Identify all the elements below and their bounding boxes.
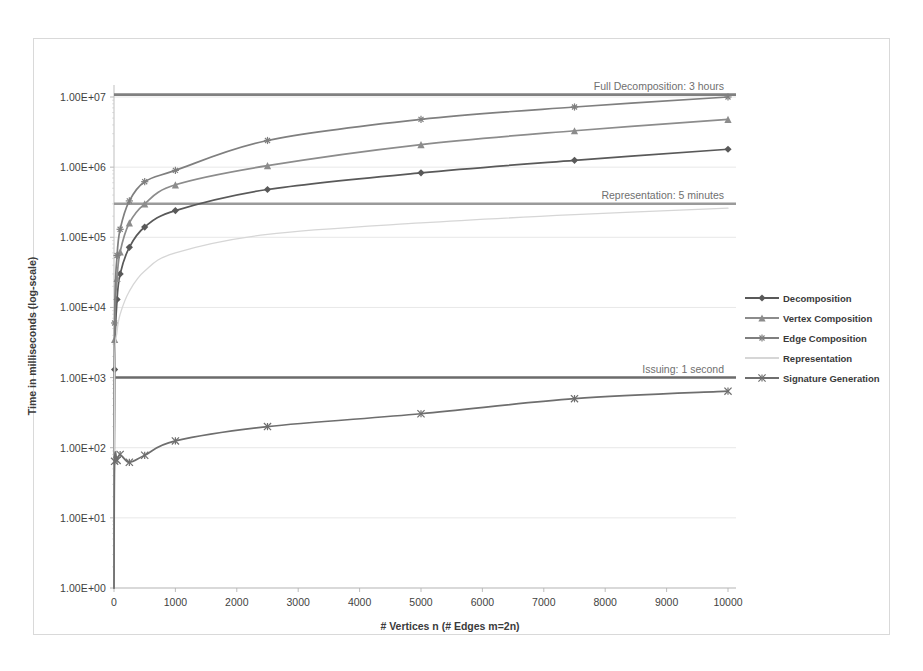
- data-point-marker: [264, 137, 271, 144]
- annotation-label-2: Issuing: 1 second: [642, 363, 724, 375]
- x-tick-label: 5000: [391, 596, 451, 608]
- legend-label: Edge Composition: [783, 333, 867, 344]
- annotation-label-1: Representation: 5 minutes: [601, 189, 724, 201]
- x-tick-label: 8000: [575, 596, 635, 608]
- legend-key-icon: [745, 332, 779, 344]
- legend-key-icon: [745, 312, 779, 324]
- legend-key-icon: [745, 372, 779, 384]
- data-point-marker: [111, 319, 118, 326]
- x-tick-label: 3000: [268, 596, 328, 608]
- data-point-marker: [117, 226, 124, 233]
- data-point-marker: [571, 103, 578, 110]
- legend-marker-icon: [745, 292, 779, 304]
- y-tick-label: 1.00E+06: [36, 161, 106, 173]
- data-point-marker: [417, 169, 424, 176]
- data-point-marker: [113, 252, 120, 259]
- data-point-marker: [141, 178, 148, 185]
- data-point-marker: [126, 244, 133, 251]
- legend-item-0[interactable]: Decomposition: [745, 288, 910, 308]
- legend-item-4[interactable]: Signature Generation: [745, 368, 910, 388]
- x-tick-label: 2000: [207, 596, 267, 608]
- legend-marker-icon: [745, 312, 779, 324]
- data-point-marker: [172, 207, 179, 214]
- data-point-marker: [117, 451, 124, 458]
- data-point-marker: [571, 157, 578, 164]
- legend-item-2[interactable]: Edge Composition: [745, 328, 910, 348]
- data-point-marker: [172, 167, 179, 174]
- data-point-marker: [758, 294, 765, 301]
- chart-legend: DecompositionVertex CompositionEdge Comp…: [745, 288, 910, 388]
- x-tick-label: 9000: [637, 596, 697, 608]
- legend-key-icon: [745, 292, 779, 304]
- legend-label: Representation: [783, 353, 852, 364]
- x-tick-label: 6000: [452, 596, 512, 608]
- legend-label: Decomposition: [783, 293, 852, 304]
- data-point-marker: [724, 146, 731, 153]
- y-axis-title: Time in milliseconds (log-scale): [26, 246, 38, 426]
- legend-key-icon: [745, 352, 779, 364]
- legend-label: Vertex Composition: [783, 313, 872, 324]
- data-point-marker: [758, 334, 765, 341]
- x-tick-label: 4000: [330, 596, 390, 608]
- y-tick-label: 1.00E+05: [36, 231, 106, 243]
- legend-item-1[interactable]: Vertex Composition: [745, 308, 910, 328]
- x-tick-label: 1000: [145, 596, 205, 608]
- series-line-4: [114, 391, 728, 588]
- legend-marker-icon: [745, 372, 779, 384]
- data-point-marker: [758, 314, 765, 321]
- y-tick-label: 1.00E+07: [36, 91, 106, 103]
- data-point-marker: [126, 197, 133, 204]
- series-line-3: [114, 208, 728, 588]
- data-point-marker: [417, 116, 424, 123]
- data-point-marker: [126, 219, 133, 226]
- x-axis-title: # Vertices n (# Edges m=2n): [100, 620, 800, 632]
- x-tick-label: 0: [84, 596, 144, 608]
- x-tick-label: 10000: [698, 596, 758, 608]
- y-tick-label: 1.00E+03: [36, 372, 106, 384]
- y-tick-label: 1.00E+01: [36, 512, 106, 524]
- annotation-label-0: Full Decomposition: 3 hours: [594, 80, 724, 92]
- data-point-marker: [724, 93, 731, 100]
- y-tick-label: 1.00E+04: [36, 301, 106, 313]
- legend-item-3[interactable]: Representation: [745, 348, 910, 368]
- x-tick-label: 7000: [514, 596, 574, 608]
- data-point-marker: [141, 452, 148, 459]
- data-point-marker: [758, 374, 765, 381]
- data-point-marker: [264, 186, 271, 193]
- y-tick-label: 1.00E+00: [36, 582, 106, 594]
- y-tick-label: 1.00E+02: [36, 442, 106, 454]
- legend-marker-icon: [745, 332, 779, 344]
- series-line-0: [114, 149, 728, 588]
- legend-label: Signature Generation: [783, 373, 880, 384]
